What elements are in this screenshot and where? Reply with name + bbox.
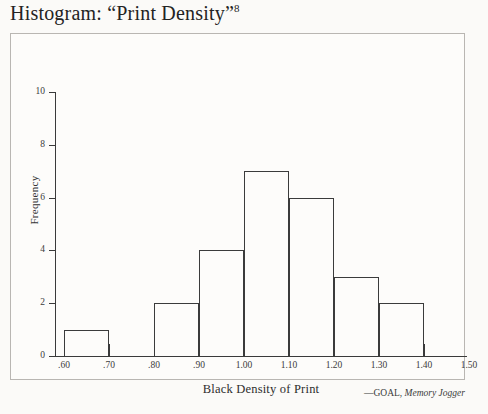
x-axis-tick-label: 1.00 bbox=[224, 360, 264, 370]
y-axis-tick bbox=[49, 92, 55, 93]
x-axis-line bbox=[55, 356, 467, 357]
histogram-bar bbox=[64, 330, 109, 356]
y-axis-tick-label: 2 bbox=[29, 297, 45, 307]
y-axis-tick bbox=[49, 145, 55, 146]
y-axis-tick-label: 10 bbox=[29, 86, 45, 96]
chart-title-text: Histogram: “Print Density” bbox=[10, 2, 234, 24]
histogram-bar bbox=[199, 250, 244, 356]
histogram-bar bbox=[289, 198, 334, 356]
y-axis-tick bbox=[49, 356, 55, 357]
histogram-bar bbox=[154, 303, 199, 356]
plot-frame: Frequency Black Density of Print 0246810… bbox=[10, 33, 465, 380]
x-axis-tick-label: .70 bbox=[89, 360, 129, 370]
attribution-author: —GOAL, bbox=[364, 388, 402, 398]
y-axis-tick-label: 4 bbox=[29, 244, 45, 254]
y-axis-tick bbox=[49, 198, 55, 199]
x-axis-tick-label: 1.10 bbox=[269, 360, 309, 370]
x-axis-tick bbox=[424, 344, 425, 356]
footnote-marker: 8 bbox=[234, 2, 240, 14]
x-axis-tick-label: 1.30 bbox=[359, 360, 399, 370]
histogram-figure: Histogram: “Print Density”8 Frequency Bl… bbox=[0, 0, 488, 414]
attribution-source: Memory Jogger bbox=[405, 388, 465, 398]
y-axis-tick bbox=[49, 250, 55, 251]
x-axis-tick-label: 1.20 bbox=[314, 360, 354, 370]
x-axis-tick-label: .80 bbox=[134, 360, 174, 370]
histogram-bar bbox=[244, 171, 289, 356]
histogram-bar bbox=[334, 277, 379, 356]
page-title: Histogram: “Print Density”8 bbox=[10, 2, 240, 25]
y-axis-tick-label: 6 bbox=[29, 192, 45, 202]
x-axis-tick-label: 1.50 bbox=[449, 360, 488, 370]
y-axis-tick-label: 0 bbox=[29, 350, 45, 360]
y-axis-tick-label: 8 bbox=[29, 139, 45, 149]
x-axis-tick-label: .90 bbox=[179, 360, 219, 370]
x-axis-tick-label: 1.40 bbox=[404, 360, 444, 370]
x-axis-tick bbox=[109, 344, 110, 356]
attribution: —GOAL, Memory Jogger bbox=[265, 388, 465, 398]
histogram-bar bbox=[379, 303, 424, 356]
x-axis-tick-label: .60 bbox=[44, 360, 84, 370]
y-axis-line bbox=[55, 92, 56, 357]
y-axis-tick bbox=[49, 303, 55, 304]
